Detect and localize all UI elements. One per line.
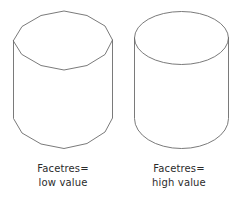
- caption-low-value-line1: Facetres=: [8, 162, 118, 176]
- facetres-comparison-figure: Facetres= low value Facetres= high value: [0, 0, 238, 206]
- smooth-cylinder-top: [135, 12, 229, 65]
- faceted-cylinder-body: [14, 40, 113, 149]
- caption-high-value: Facetres= high value: [124, 162, 234, 190]
- caption-low-value: Facetres= low value: [8, 162, 118, 190]
- caption-high-value-line2: high value: [124, 176, 234, 190]
- faceted-cylinder-left: [14, 11, 113, 149]
- caption-high-value-line1: Facetres=: [124, 162, 234, 176]
- smooth-cylinder-body: [135, 38, 229, 149]
- smooth-cylinder-right: [135, 12, 229, 149]
- faceted-cylinder-top: [14, 11, 113, 70]
- caption-low-value-line2: low value: [8, 176, 118, 190]
